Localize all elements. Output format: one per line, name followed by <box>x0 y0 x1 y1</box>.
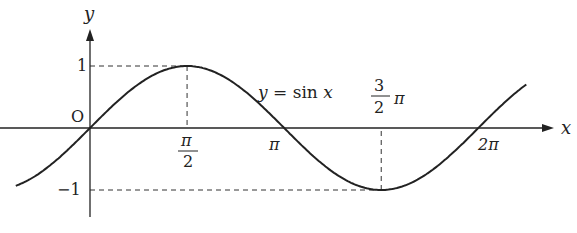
function-label: y = sin x <box>257 82 333 102</box>
y-tick-neg1: −1 <box>57 180 81 199</box>
x-tick-3pi-over-2: 3 2 π <box>371 76 405 117</box>
y-axis-label: y <box>83 3 95 24</box>
y-axis-arrow-icon <box>86 29 94 41</box>
x-tick-2pi: 2π <box>477 135 499 154</box>
svg-text:2: 2 <box>374 98 384 117</box>
svg-text:2: 2 <box>183 152 193 171</box>
x-tick-pi: π <box>268 135 280 154</box>
svg-text:3: 3 <box>374 76 384 95</box>
svg-text:π: π <box>393 89 405 108</box>
y-tick-1: 1 <box>77 56 87 75</box>
svg-text:π: π <box>180 131 192 150</box>
x-axis-arrow-icon <box>542 124 554 132</box>
origin-label: O <box>71 107 84 126</box>
sine-chart: y x O 1 −1 π 2 π 3 2 π 2π y = sin x <box>0 0 577 233</box>
x-axis-label: x <box>561 117 571 138</box>
x-tick-pi-over-2: π 2 <box>178 131 198 171</box>
